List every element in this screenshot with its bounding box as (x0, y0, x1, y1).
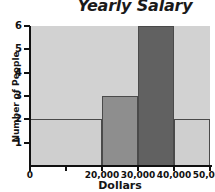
y-axis-tick (24, 72, 30, 74)
y-axis-tick-label: 6 (8, 21, 22, 31)
y-axis-tick-label: 5 (8, 44, 22, 54)
histogram-bar (174, 119, 210, 166)
y-axis-tick (24, 142, 30, 144)
y-axis-tick (24, 118, 30, 120)
x-axis-tick (65, 166, 67, 171)
x-axis-line (30, 165, 212, 167)
yearly-salary-histogram: Yearly Salary Number of People 123456 02… (0, 0, 215, 192)
x-axis-tick-label: 0 (7, 170, 53, 180)
bar-series (30, 26, 210, 166)
plot-area (30, 26, 210, 166)
y-axis-tick (24, 95, 30, 97)
x-axis-label: Dollars (30, 180, 210, 192)
y-axis-tick (24, 48, 30, 50)
y-axis-tick-label: 1 (8, 138, 22, 148)
y-axis-tick-label: 3 (8, 91, 22, 101)
histogram-bar (102, 96, 138, 166)
chart-title: Yearly Salary (60, 0, 210, 15)
y-axis-tick-label: 2 (8, 114, 22, 124)
y-axis-tick (24, 25, 30, 27)
y-axis-tick-label: 4 (8, 68, 22, 78)
histogram-bar (138, 26, 174, 166)
x-axis-tick-label: 50,000 (187, 170, 215, 180)
histogram-bar (30, 119, 102, 166)
